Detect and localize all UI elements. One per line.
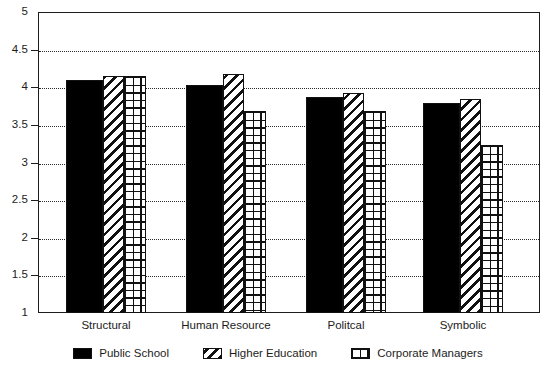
legend-label: Corporate Managers (377, 348, 482, 360)
legend-swatch-icon (203, 348, 222, 359)
y-axis-label: 1.5 (0, 269, 28, 281)
legend-item[interactable]: Public School (73, 348, 169, 360)
legend-label: Higher Education (229, 348, 317, 360)
x-axis-label: Structural (81, 320, 130, 332)
legend-swatch-icon (73, 348, 92, 359)
y-axis-label: 3 (0, 157, 28, 169)
y-axis-label: 4 (0, 81, 28, 93)
bar (186, 85, 223, 313)
y-axis-label: 2 (0, 232, 28, 244)
bar (423, 103, 460, 313)
bar (103, 76, 124, 313)
bar (343, 93, 364, 313)
y-axis-label: 1 (0, 307, 28, 319)
x-axis-label: Human Resource (181, 320, 270, 332)
y-axis-label: 5 (0, 6, 28, 18)
bar (306, 97, 343, 313)
legend-item[interactable]: Higher Education (203, 348, 317, 360)
bar (460, 99, 481, 313)
x-axis-label: Politcal (327, 320, 364, 332)
bar (66, 80, 103, 313)
y-axis-label: 3.5 (0, 119, 28, 131)
bar (244, 111, 266, 313)
bars-layer (38, 12, 540, 313)
legend-item[interactable]: Corporate Managers (351, 348, 482, 360)
y-axis-label: 4.5 (0, 44, 28, 56)
x-axis-label: Symbolic (440, 320, 487, 332)
bar (364, 111, 386, 313)
legend-swatch-icon (351, 348, 370, 359)
chart-legend: Public SchoolHigher EducationCorporate M… (0, 348, 556, 360)
legend-label: Public School (99, 348, 169, 360)
bar (481, 145, 503, 313)
y-axis-label: 2.5 (0, 194, 28, 206)
bar (223, 74, 244, 313)
grouped-bar-chart: 11.522.533.544.55 StructuralHuman Resour… (0, 0, 556, 376)
bar (124, 76, 146, 313)
